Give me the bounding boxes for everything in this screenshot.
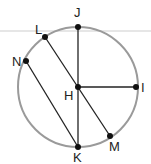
circle-diagram: J L N H I K M xyxy=(0,0,151,164)
label-j: J xyxy=(74,5,81,20)
label-h: H xyxy=(64,88,73,103)
label-k: K xyxy=(73,150,82,164)
label-l: L xyxy=(35,22,42,37)
point-j xyxy=(75,24,81,30)
label-n: N xyxy=(12,54,21,69)
point-l xyxy=(42,34,48,40)
point-i xyxy=(133,84,139,90)
point-n xyxy=(23,58,29,64)
point-h xyxy=(75,84,81,90)
label-i: I xyxy=(141,80,145,95)
segment-nk xyxy=(26,61,78,147)
label-m: M xyxy=(109,139,120,154)
